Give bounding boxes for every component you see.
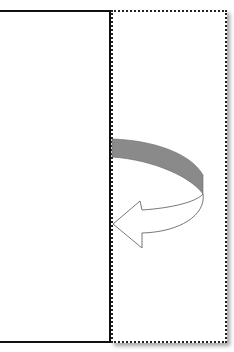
curved-fold-arrow-icon — [0, 0, 234, 352]
arrow-body — [113, 194, 203, 248]
arrow-band — [112, 139, 203, 194]
fold-diagram — [0, 0, 234, 352]
